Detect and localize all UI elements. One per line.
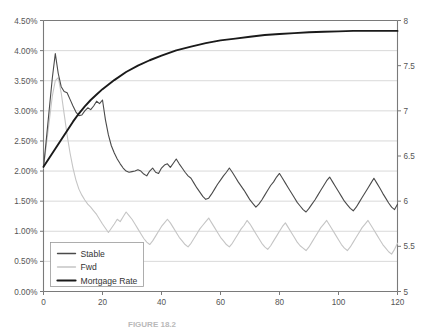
chart-legend: StableFwdMortgage Rate [51, 243, 144, 287]
chart-container: 0.00%0.50%1.00%1.50%2.00%2.50%3.00%3.50%… [0, 0, 441, 328]
left-tick-label: 3.50% [14, 77, 37, 86]
caption-label: FIGURE 18.2 [128, 320, 177, 328]
left-tick-label: 4.50% [14, 17, 37, 26]
left-tick-label: 1.00% [14, 227, 37, 236]
right-tick-label: 6 [404, 197, 409, 206]
legend-label-mortgage-rate: Mortgage Rate [81, 276, 138, 286]
right-tick-label: 7.5 [404, 62, 416, 71]
left-tick-label: 4.00% [14, 47, 37, 56]
left-tick-label: 1.50% [14, 197, 37, 206]
legend-label-fwd: Fwd [81, 262, 97, 272]
x-tick-label: 80 [275, 298, 285, 307]
left-tick-label: 0.50% [14, 257, 37, 266]
left-tick-label: 3.00% [14, 107, 37, 116]
x-tick-label: 40 [157, 298, 167, 307]
right-tick-label: 7 [404, 107, 409, 116]
left-tick-label: 2.00% [14, 167, 37, 176]
x-tick-label: 20 [98, 298, 108, 307]
left-tick-label: 2.50% [14, 137, 37, 146]
legend-label-stable: Stable [81, 249, 106, 259]
x-tick-label: 120 [391, 298, 405, 307]
x-tick-label: 0 [41, 298, 46, 307]
right-tick-label: 5 [404, 288, 409, 297]
line-chart: 0.00%0.50%1.00%1.50%2.00%2.50%3.00%3.50%… [0, 0, 441, 328]
right-tick-label: 8 [404, 17, 409, 26]
figure-caption: FIGURE 18.2 [128, 320, 177, 328]
x-tick-label: 60 [216, 298, 226, 307]
right-tick-label: 5.5 [404, 242, 416, 251]
left-tick-label: 0.00% [14, 288, 37, 297]
right-tick-label: 6.5 [404, 152, 416, 161]
x-tick-label: 100 [332, 298, 346, 307]
